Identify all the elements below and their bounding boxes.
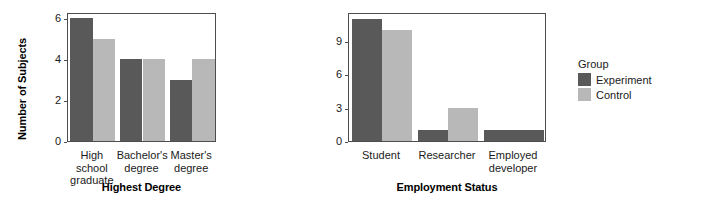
x-tick-label: Researcher bbox=[414, 149, 480, 162]
plot-area-employment bbox=[348, 13, 546, 142]
x-tick-label-line: High school bbox=[67, 149, 117, 174]
legend-item[interactable]: Control bbox=[578, 88, 696, 101]
bar bbox=[382, 30, 412, 141]
bar bbox=[170, 80, 192, 141]
x-tick-label-line: Bachelor's bbox=[117, 149, 167, 162]
x-tick-label-line: Researcher bbox=[414, 149, 480, 162]
bar bbox=[70, 18, 92, 141]
y-tick-label: 3 bbox=[324, 102, 342, 114]
x-tick-label-line: developer bbox=[480, 162, 546, 175]
y-tick-label: 9 bbox=[324, 35, 342, 47]
bar bbox=[143, 59, 165, 141]
bar bbox=[120, 59, 142, 141]
x-tick-label-line: Employed bbox=[480, 149, 546, 162]
legend-swatch-icon bbox=[578, 88, 591, 101]
y-tick-mark bbox=[345, 142, 348, 143]
y-tick-label: 0 bbox=[324, 135, 342, 147]
plot-area-degree bbox=[67, 13, 216, 142]
legend-item-label: Control bbox=[596, 89, 631, 101]
legend-swatch-icon bbox=[578, 73, 591, 86]
bar bbox=[484, 130, 543, 141]
x-tick-label: Student bbox=[348, 149, 414, 162]
legend-title: Group bbox=[578, 58, 696, 70]
bar bbox=[93, 39, 115, 141]
y-tick-mark bbox=[64, 142, 67, 143]
bar bbox=[192, 59, 214, 141]
x-tick-label-line: Master's bbox=[166, 149, 216, 162]
legend-item[interactable]: Experiment bbox=[578, 73, 696, 86]
y-tick-label: 4 bbox=[43, 53, 61, 65]
y-axis-title-degree: Number of Subjects bbox=[16, 38, 28, 140]
x-tick-label-line: degree bbox=[166, 162, 216, 175]
y-tick-label: 0 bbox=[43, 135, 61, 147]
panel-highest-degree: Number of Subjects 0246 High schoolgradu… bbox=[0, 0, 330, 209]
y-tick-label: 6 bbox=[43, 12, 61, 24]
panel-employment-status: 0369 StudentResearcherEmployeddeveloper … bbox=[330, 0, 560, 209]
x-tick-label: Master'sdegree bbox=[166, 149, 216, 174]
x-tick-label: Employeddeveloper bbox=[480, 149, 546, 174]
y-tick-label: 6 bbox=[324, 68, 342, 80]
x-tick-label-line: degree bbox=[117, 162, 167, 175]
bar bbox=[418, 130, 448, 141]
legend-item-label: Experiment bbox=[596, 74, 652, 86]
y-tick-label: 2 bbox=[43, 94, 61, 106]
x-tick-label-line: Student bbox=[348, 149, 414, 162]
bar bbox=[448, 108, 478, 141]
x-axis-title-degree: Highest Degree bbox=[67, 181, 216, 193]
legend: Group ExperimentControl bbox=[578, 58, 696, 103]
x-tick-label: Bachelor'sdegree bbox=[117, 149, 167, 174]
figure-grouped-bar-charts: Number of Subjects 0246 High schoolgradu… bbox=[0, 0, 701, 209]
legend-items: ExperimentControl bbox=[578, 73, 696, 101]
x-axis-title-employment: Employment Status bbox=[348, 181, 546, 193]
bar bbox=[352, 19, 382, 141]
